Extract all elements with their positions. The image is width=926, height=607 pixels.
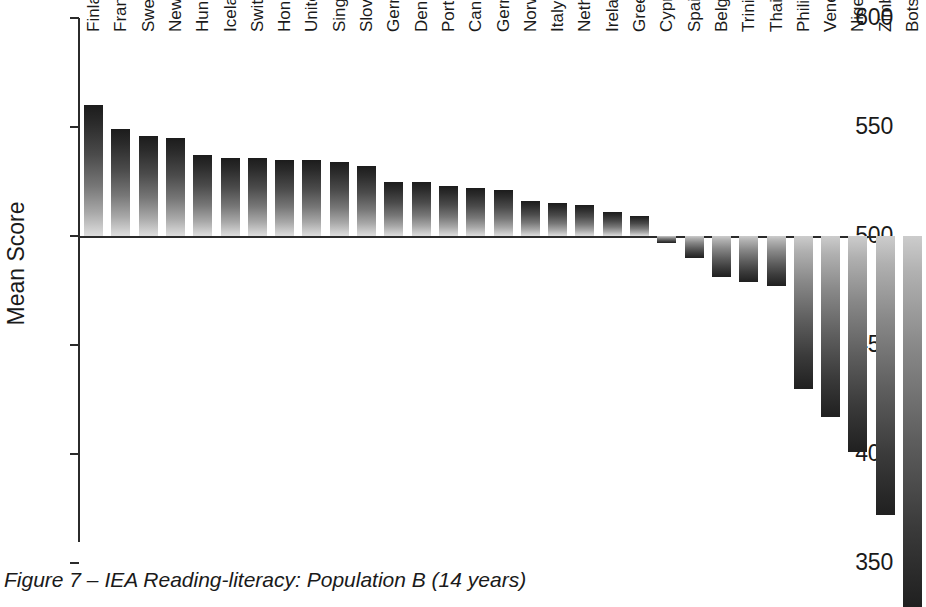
bar-category-label: Germany/W — [494, 14, 513, 33]
bar-category-label: Belgium/Fr — [712, 14, 731, 33]
bar-group[interactable]: Portugal — [435, 0, 462, 597]
bar[interactable] — [139, 136, 158, 236]
bar[interactable] — [903, 236, 922, 607]
bar-category-label: Cyprus — [657, 14, 676, 33]
bar-category-label: United States — [302, 14, 321, 33]
bar-group[interactable]: Cyprus — [653, 0, 680, 597]
bar[interactable] — [439, 186, 458, 236]
bar-group[interactable]: Denmark — [408, 0, 435, 597]
bar[interactable] — [357, 166, 376, 236]
bar-category-label: Zimbabwe — [876, 14, 895, 33]
bar-group[interactable]: Trinidad/Tobago — [735, 0, 762, 597]
bar-category-label: Canada/BC — [466, 14, 485, 33]
bar[interactable] — [575, 205, 594, 236]
bar[interactable] — [302, 160, 321, 236]
bar-category-label: Trinidad/Tobago — [739, 14, 758, 33]
bar-category-label: Portugal — [439, 14, 458, 33]
bar-group[interactable]: Belgium/Fr — [708, 0, 735, 597]
bar[interactable] — [794, 236, 813, 389]
bar-group[interactable]: New Zealand — [162, 0, 189, 597]
bar-category-label: Norway — [521, 14, 540, 33]
bar-group[interactable]: Norway — [517, 0, 544, 597]
bar-category-label: Denmark — [412, 14, 431, 33]
bar-category-label: Philippines — [794, 14, 813, 33]
bar-group[interactable]: Botswana — [899, 0, 926, 597]
bar-group[interactable]: Iceland — [217, 0, 244, 597]
bar-category-label: Hungary — [193, 14, 212, 33]
bar[interactable] — [384, 182, 403, 237]
bar-group[interactable]: Germany/E — [380, 0, 407, 597]
bar[interactable] — [111, 129, 130, 236]
bar-category-label: Netherlands — [575, 14, 594, 33]
bar[interactable] — [767, 236, 786, 286]
bar[interactable] — [712, 236, 731, 277]
bar[interactable] — [494, 190, 513, 236]
bar[interactable] — [466, 188, 485, 236]
bar-group[interactable]: France — [107, 0, 134, 597]
bar[interactable] — [603, 212, 622, 236]
bar[interactable] — [248, 158, 267, 236]
bar-group[interactable]: Hong Kong — [271, 0, 298, 597]
bar-group[interactable]: United States — [298, 0, 325, 597]
bar-group[interactable]: Hungary — [189, 0, 216, 597]
bar-category-label: Hong Kong — [275, 14, 294, 33]
bar-category-label: France — [111, 14, 130, 33]
bar[interactable] — [821, 236, 840, 417]
bar[interactable] — [657, 236, 676, 243]
bar-group[interactable]: Finland — [80, 0, 107, 597]
bar-group[interactable]: Zimbabwe — [872, 0, 899, 597]
bar-group[interactable]: Philippines — [790, 0, 817, 597]
y-axis-title: Mean Score — [5, 184, 28, 344]
bar[interactable] — [193, 155, 212, 236]
bar-category-label: Singapore — [330, 14, 349, 33]
bar-group[interactable]: Switzerland — [244, 0, 271, 597]
bar-group[interactable]: Spain — [681, 0, 708, 597]
bar[interactable] — [548, 203, 567, 236]
bar-group[interactable]: Ireland — [599, 0, 626, 597]
bar-category-label: Ireland — [603, 14, 622, 33]
bar[interactable] — [521, 201, 540, 236]
bar-category-label: Spain — [685, 14, 704, 33]
bar-group[interactable]: Germany/W — [490, 0, 517, 597]
bar-category-label: Italy — [548, 14, 567, 33]
bar[interactable] — [876, 236, 895, 515]
bar-category-label: New Zealand — [166, 14, 185, 33]
bar[interactable] — [221, 158, 240, 236]
bar-group[interactable]: Sweden — [135, 0, 162, 597]
bar-category-label: Switzerland — [248, 14, 267, 33]
figure-caption: Figure 7 – IEA Reading-literacy: Populat… — [4, 568, 526, 592]
bar[interactable] — [739, 236, 758, 282]
bar-category-label: Botswana — [903, 14, 922, 33]
bar-category-label: Nigeria — [848, 14, 867, 33]
bar-group[interactable]: Netherlands — [571, 0, 598, 597]
bar-group[interactable]: Italy — [544, 0, 571, 597]
bar[interactable] — [84, 105, 103, 236]
bar-group[interactable]: Venezuela — [817, 0, 844, 597]
bar-group[interactable]: Greece — [626, 0, 653, 597]
bar-group[interactable]: Nigeria — [844, 0, 871, 597]
bar-category-label: Thailand — [767, 14, 786, 33]
bar[interactable] — [412, 182, 431, 237]
bar-category-label: Sweden — [139, 14, 158, 33]
bar[interactable] — [848, 236, 867, 452]
bar-category-label: Venezuela — [821, 14, 840, 33]
bar-category-label: Greece — [630, 14, 649, 33]
bar[interactable] — [630, 216, 649, 236]
bar[interactable] — [166, 138, 185, 236]
bar[interactable] — [685, 236, 704, 258]
bar[interactable] — [330, 162, 349, 236]
bar-group[interactable]: Slovenia — [353, 0, 380, 597]
bar-category-label: Iceland — [221, 14, 240, 33]
bar[interactable] — [275, 160, 294, 236]
bar-category-label: Germany/E — [384, 14, 403, 33]
bar-group[interactable]: Thailand — [763, 0, 790, 597]
bar-group[interactable]: Singapore — [326, 0, 353, 597]
bar-plot-area: FinlandFranceSwedenNew ZealandHungaryIce… — [78, 0, 893, 597]
bar-category-label: Finland — [84, 14, 103, 33]
bar-group[interactable]: Canada/BC — [462, 0, 489, 597]
bar-category-label: Slovenia — [357, 14, 376, 33]
